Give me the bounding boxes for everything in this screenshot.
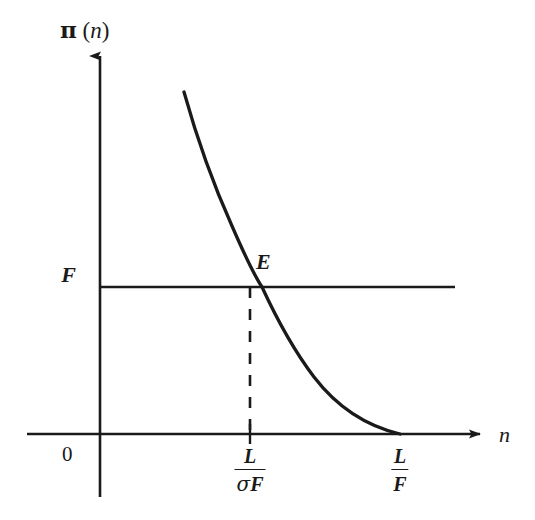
equilibrium-point-label: E bbox=[256, 251, 271, 273]
fraction-bar bbox=[235, 469, 266, 470]
economics-profit-diagram: π (n) n F E 0 L σF L F bbox=[0, 0, 535, 520]
x-tick-label-break-even-sigma: L σF bbox=[235, 445, 266, 496]
denominator-rest: F bbox=[250, 473, 263, 495]
fraction-numerator: L bbox=[391, 445, 408, 468]
fraction-bar bbox=[391, 469, 408, 470]
fraction-denominator: F bbox=[391, 472, 408, 495]
fraction-denominator: σF bbox=[235, 472, 266, 495]
origin-label: 0 bbox=[62, 444, 73, 465]
fraction-numerator: L bbox=[235, 445, 266, 468]
paren-open: ( bbox=[77, 18, 90, 43]
y-axis-label: π (n) bbox=[60, 18, 109, 42]
variable-n: n bbox=[90, 18, 102, 43]
x-axis-label: n bbox=[499, 424, 510, 446]
paren-close: ) bbox=[102, 18, 110, 43]
fixed-cost-label: F bbox=[61, 264, 76, 286]
sigma-symbol: σ bbox=[237, 472, 251, 496]
pi-symbol: π bbox=[60, 16, 77, 43]
profit-curve bbox=[184, 92, 400, 434]
x-tick-label-zero-profit: L F bbox=[391, 445, 408, 496]
